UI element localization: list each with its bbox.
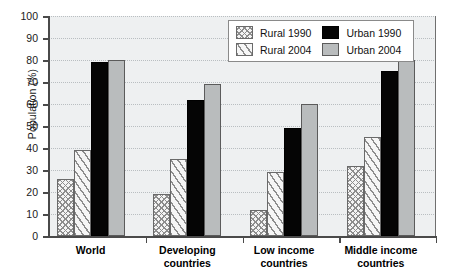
y-axis-tick	[43, 38, 49, 40]
y-axis-tick-label: 90	[8, 32, 38, 44]
legend-swatch-urban1990	[322, 26, 339, 39]
legend-label-urban1990: Urban 1990	[346, 27, 405, 39]
bar-urban1990-1	[187, 100, 204, 236]
bar-urban2004-2	[301, 104, 318, 236]
bar-urban2004-1	[204, 84, 221, 236]
chart-legend: Rural 1990Urban 1990Rural 2004Urban 2004	[228, 20, 414, 62]
legend-swatch-rural2004	[236, 43, 253, 56]
gridline	[49, 16, 436, 17]
y-axis-tick-label: 80	[8, 54, 38, 66]
y-axis-tick-label: 0	[8, 230, 38, 242]
bar-urban1990-2	[284, 128, 301, 236]
bar-rural1990-0	[57, 179, 74, 236]
y-axis-tick-label: 30	[8, 164, 38, 176]
bar-rural1990-2	[250, 210, 267, 236]
bar-urban2004-0	[108, 60, 125, 236]
bar-urban1990-0	[91, 62, 108, 236]
y-axis-tick	[43, 170, 49, 172]
y-axis-tick	[43, 104, 49, 106]
x-axis-label-line: Middle income	[321, 244, 441, 257]
bar-rural1990-3	[347, 166, 364, 236]
y-axis-tick	[43, 82, 49, 84]
x-axis-label-line: countries	[321, 257, 441, 270]
x-axis-group-separator	[339, 236, 340, 243]
legend-swatch-urban2004	[322, 43, 339, 56]
x-axis-group-separator	[243, 236, 244, 243]
bar-chart: Population (%) 0102030405060708090100 Wo…	[0, 0, 462, 278]
bar-urban1990-3	[381, 71, 398, 236]
y-axis-tick-label: 100	[8, 10, 38, 22]
y-axis-tick-label: 70	[8, 76, 38, 88]
y-axis-tick-label: 20	[8, 186, 38, 198]
plot-right-border	[435, 16, 436, 237]
y-axis-tick	[43, 236, 49, 238]
y-axis-tick-label: 10	[8, 208, 38, 220]
legend-label-rural1990: Rural 1990	[260, 27, 315, 39]
bar-rural2004-3	[364, 137, 381, 236]
y-axis-tick	[43, 148, 49, 150]
y-axis-tick-label: 60	[8, 98, 38, 110]
bar-rural2004-1	[170, 159, 187, 236]
y-axis-tick-label: 50	[8, 120, 38, 132]
legend-label-rural2004: Rural 2004	[260, 44, 315, 56]
y-axis-tick	[43, 126, 49, 128]
legend-swatch-rural1990	[236, 26, 253, 39]
bar-rural2004-2	[267, 172, 284, 236]
y-axis-tick	[43, 60, 49, 62]
x-axis-group-separator	[146, 236, 147, 243]
y-axis-tick	[43, 192, 49, 194]
y-axis-tick	[43, 16, 49, 18]
x-axis-group-separator	[436, 236, 437, 243]
x-axis-label-3: Middle incomecountries	[321, 244, 441, 269]
bar-urban2004-3	[398, 60, 415, 236]
y-axis-tick	[43, 214, 49, 216]
bar-rural2004-0	[74, 150, 91, 236]
legend-label-urban2004: Urban 2004	[346, 44, 405, 56]
bar-rural1990-1	[153, 194, 170, 236]
y-axis-tick-label: 40	[8, 142, 38, 154]
